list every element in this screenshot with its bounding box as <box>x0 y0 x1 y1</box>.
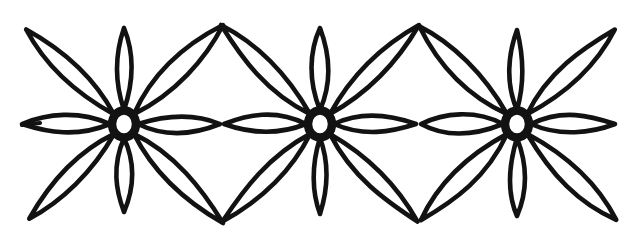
flower-left-core-ring <box>112 111 136 138</box>
flower-right-core-ring <box>505 111 529 138</box>
flower-center-core-ring <box>308 111 332 138</box>
artboard <box>0 0 636 240</box>
flower-left-left-edge-tail <box>22 123 40 125</box>
floral-border-ornament <box>0 0 636 240</box>
